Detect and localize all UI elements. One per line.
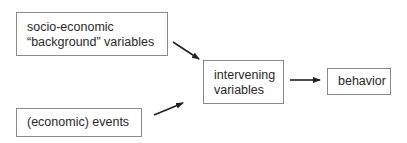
arrow-background-to-intervening (173, 42, 199, 59)
arrows-layer (0, 0, 407, 143)
arrow-events-to-intervening (154, 103, 183, 115)
